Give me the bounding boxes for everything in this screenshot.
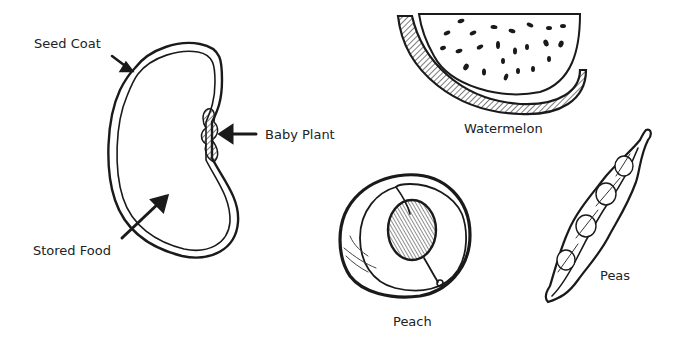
diagram-drawing (0, 0, 681, 344)
label-seed-coat: Seed Coat (34, 36, 101, 51)
seed-coat-arrow (112, 56, 132, 71)
peach-illustration (340, 175, 470, 297)
seed-diagram: Seed Coat Baby Plant Stored Food Waterme… (0, 0, 681, 344)
watermelon-illustration (398, 14, 586, 114)
baby-plant-embryo (202, 109, 218, 162)
label-watermelon: Watermelon (464, 121, 543, 136)
peas-illustration (546, 130, 651, 302)
label-peas: Peas (600, 268, 630, 283)
bean-seed-illustration (108, 43, 238, 258)
stored-food-arrow (122, 196, 167, 238)
label-baby-plant: Baby Plant (265, 127, 335, 142)
peach-pit (388, 200, 436, 260)
baby-plant-arrow (220, 126, 256, 142)
label-stored-food: Stored Food (33, 243, 111, 258)
peach-stem-line (424, 258, 438, 282)
label-peach: Peach (393, 314, 432, 329)
seed-coat-outline (108, 43, 238, 258)
